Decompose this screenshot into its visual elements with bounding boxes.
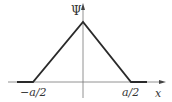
y-axis-label: Ψ [71,5,82,17]
tick-label-right: a/2 [122,87,139,98]
x-axis-arrow-icon [159,80,166,84]
tick-label-left: −a/2 [20,87,46,98]
wavefunction-curve [17,22,147,82]
x-axis-label: x [155,88,161,99]
